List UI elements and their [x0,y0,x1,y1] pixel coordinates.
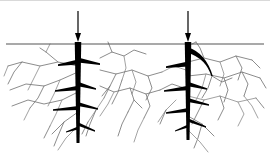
root-crack-diagram [0,0,270,163]
diagram-canvas [0,0,270,163]
top-border-rule [0,0,270,1]
